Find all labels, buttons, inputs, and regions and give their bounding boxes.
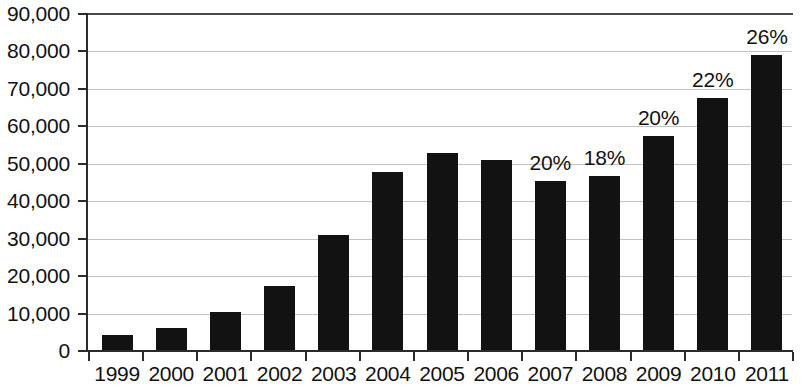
bar [535,181,566,351]
x-axis-tick-label: 2003 [311,362,357,386]
x-axis-tick-mark [142,352,144,361]
bar [643,136,674,351]
y-axis-tick-mark [78,88,88,90]
bar [156,328,187,351]
y-axis-tick-label: 70,000 [7,77,70,101]
gridline [88,51,792,52]
bar [264,286,295,351]
x-axis-tick-label: 2000 [148,362,194,386]
gridline [88,126,792,127]
x-axis-tick-mark [575,352,577,361]
y-axis-tick-label: 40,000 [7,189,70,213]
x-axis-tick-label: 2005 [419,362,465,386]
y-axis-tick-label: 90,000 [7,2,70,26]
x-axis-tick-mark [196,352,198,361]
x-axis-tick-mark [250,352,252,361]
x-axis-tick-label: 1999 [94,362,140,386]
x-axis-tick-mark [88,352,90,361]
y-axis-tick-label: 10,000 [7,302,70,326]
y-axis-tick-mark [78,313,88,315]
y-axis-tick-mark [78,200,88,202]
y-axis-tick-mark [78,125,88,127]
y-axis-tick-mark [78,163,88,165]
bar-data-label: 22% [692,68,733,92]
x-axis-tick-label: 2004 [365,362,411,386]
x-axis-tick-label: 2009 [636,362,682,386]
y-axis: 010,00020,00030,00040,00050,00060,00070,… [0,0,78,388]
y-axis-tick-mark [78,275,88,277]
x-axis-tick-mark [792,352,794,361]
bar [589,176,620,351]
y-axis-tick-label: 60,000 [7,114,70,138]
y-axis-tick-label: 0 [59,339,70,363]
x-axis-tick-mark [738,352,740,361]
y-axis-tick-mark [78,238,88,240]
y-axis-tick-mark [78,13,88,15]
y-axis-tick-label: 80,000 [7,39,70,63]
x-axis-tick-label: 2006 [473,362,519,386]
bar [751,55,782,351]
x-axis-line [86,350,793,352]
x-axis-tick-mark [521,352,523,361]
gridline [88,89,792,90]
bar [210,312,241,351]
bar [481,160,512,351]
x-axis-tick-mark [630,352,632,361]
x-axis-tick-mark [305,352,307,361]
x-axis-tick-mark [359,352,361,361]
bar [697,98,728,351]
bar [318,235,349,351]
x-axis-tick-label: 2001 [203,362,249,386]
bar-data-label: 20% [530,151,571,175]
x-axis-tick-mark [467,352,469,361]
x-axis-tick-label: 2007 [528,362,574,386]
bar-chart: 010,00020,00030,00040,00050,00060,00070,… [0,0,805,388]
y-axis-tick-label: 30,000 [7,227,70,251]
bar [427,153,458,351]
bar-data-label: 18% [584,146,625,170]
bar [102,335,133,351]
y-axis-tick-label: 20,000 [7,264,70,288]
x-axis-tick-label: 2011 [745,362,789,386]
x-axis-tick-label: 2010 [690,362,736,386]
x-axis-tick-label: 2002 [257,362,303,386]
bar-data-label: 20% [638,106,679,130]
x-axis-tick-mark [413,352,415,361]
y-axis-tick-label: 50,000 [7,152,70,176]
x-axis-tick-mark [684,352,686,361]
plot-area [88,14,792,351]
y-axis-tick-mark [78,350,88,352]
x-axis-tick-label: 2008 [582,362,628,386]
bar [372,172,403,351]
y-axis-tick-mark [78,50,88,52]
bar-data-label: 26% [746,25,787,49]
